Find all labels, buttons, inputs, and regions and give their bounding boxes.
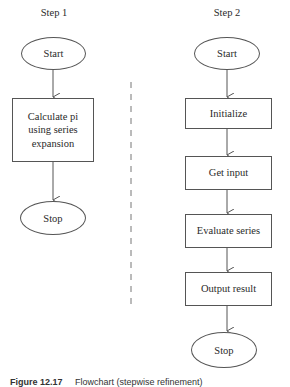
node-label: Stop [43,213,62,224]
step2-stop-node: Stop [191,332,257,368]
step2-get-input-node: Get input [185,156,272,190]
step1-stop-node: Stop [20,201,86,235]
node-label: Stop [214,345,233,356]
node-label: Output result [201,282,256,295]
figure-caption: Figure 12.17 Flowchart (stepwise refinem… [10,377,203,387]
node-label: Get input [209,166,248,179]
node-label: Initialize [210,107,247,120]
step1-title: Step 1 [24,7,84,18]
node-label: Start [44,48,64,59]
step1-start-node: Start [21,37,86,70]
step1-calculate-node: Calculate pi using series expansion [12,98,94,162]
step2-evaluate-series-node: Evaluate series [185,214,272,248]
step2-start-node: Start [194,37,260,70]
step2-initialize-node: Initialize [185,98,272,129]
node-label-line: using series [28,123,77,136]
step2-title: Step 2 [197,7,257,18]
node-label-line: Calculate pi [28,110,78,123]
node-label-line: expansion [32,137,75,150]
node-label: Evaluate series [197,224,260,237]
node-label: Start [217,48,237,59]
figure-caption-text: Flowchart (stepwise refinement) [75,377,203,387]
step2-output-result-node: Output result [185,272,272,306]
figure-label: Figure 12.17 [10,377,63,387]
